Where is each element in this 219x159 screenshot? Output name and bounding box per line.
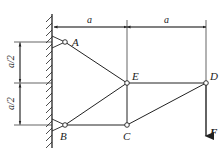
label-C: C — [123, 130, 131, 142]
label-A: A — [71, 36, 79, 48]
top-dimension — [54, 20, 206, 83]
joint-E — [125, 81, 130, 86]
dim-left-upper: a/2 — [5, 55, 16, 68]
label-B: B — [60, 130, 67, 142]
dim-top-right: a — [164, 14, 169, 25]
dim-top-left: a — [87, 14, 92, 25]
member-BE — [65, 83, 127, 125]
dim-left-lower: a/2 — [5, 97, 16, 110]
label-F: F — [209, 126, 218, 138]
joint-C — [125, 123, 130, 128]
joint-D — [204, 81, 209, 86]
truss-diagram: a a a/2 a/2 A B C D — [0, 0, 219, 159]
label-D: D — [209, 70, 218, 82]
truss-members — [65, 42, 206, 125]
joint-A — [63, 40, 68, 45]
member-CD — [127, 83, 206, 125]
joint-B — [63, 123, 68, 128]
wall — [46, 14, 52, 148]
member-AE — [65, 42, 127, 83]
label-E: E — [131, 70, 139, 82]
